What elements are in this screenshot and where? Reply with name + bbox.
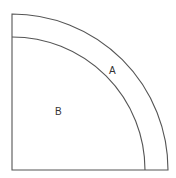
quarter-circle-diagram: A B [0,0,176,178]
inner-quarter-arc [12,37,145,170]
label-region-a: A [109,65,116,76]
outer-quarter-arc [12,14,168,170]
label-region-b: B [55,106,62,117]
